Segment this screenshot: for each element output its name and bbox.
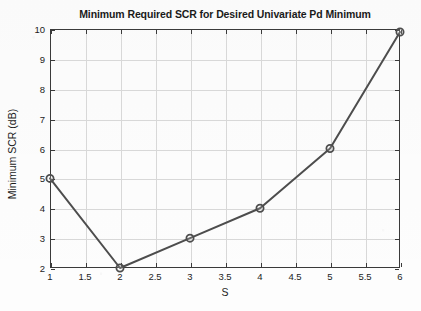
- y-tick-label: 5: [40, 173, 45, 184]
- gridline-vertical: [261, 30, 262, 267]
- y-tick-label: 3: [40, 233, 45, 244]
- y-tick-mark: [51, 179, 55, 180]
- x-tick-mark: [401, 263, 402, 267]
- x-tick-mark: [86, 30, 87, 34]
- gridline-vertical: [121, 30, 122, 267]
- x-tick-mark: [261, 263, 262, 267]
- x-tick-mark: [156, 263, 157, 267]
- y-tick-label: 6: [40, 143, 45, 154]
- x-tick-mark: [296, 30, 297, 34]
- y-tick-mark: [51, 269, 55, 270]
- x-tick-label: 5.5: [358, 271, 371, 282]
- y-tick-mark: [51, 209, 55, 210]
- y-tick-mark: [395, 90, 399, 91]
- y-tick-label: 2: [40, 263, 45, 274]
- gridline-vertical: [226, 30, 227, 267]
- x-tick-label: 2: [117, 271, 122, 282]
- x-tick-label: 4.5: [288, 271, 301, 282]
- y-tick-label: 7: [40, 113, 45, 124]
- y-tick-label: 8: [40, 83, 45, 94]
- x-tick-mark: [191, 263, 192, 267]
- x-tick-label: 1: [47, 271, 52, 282]
- gridline-vertical: [191, 30, 192, 267]
- x-tick-label: 1.5: [78, 271, 91, 282]
- x-tick-label: 6: [397, 271, 402, 282]
- y-tick-mark: [51, 60, 55, 61]
- plot-area: [50, 29, 400, 268]
- y-tick-label: 10: [34, 24, 45, 35]
- x-tick-mark: [261, 30, 262, 34]
- chart-figure: Minimum Required SCR for Desired Univari…: [0, 0, 421, 311]
- x-tick-mark: [331, 263, 332, 267]
- x-tick-label: 3: [187, 271, 192, 282]
- gridline-horizontal: [51, 90, 399, 91]
- gridline-horizontal: [51, 120, 399, 121]
- x-tick-label: 5: [327, 271, 332, 282]
- y-tick-mark: [395, 30, 399, 31]
- y-tick-mark: [51, 30, 55, 31]
- y-tick-mark: [395, 150, 399, 151]
- y-tick-label: 4: [40, 203, 45, 214]
- y-tick-mark: [395, 239, 399, 240]
- gridline-horizontal: [51, 150, 399, 151]
- chart-title: Minimum Required SCR for Desired Univari…: [50, 8, 400, 20]
- x-tick-mark: [191, 30, 192, 34]
- gridline-vertical: [331, 30, 332, 267]
- gridline-horizontal: [51, 60, 399, 61]
- y-axis-label: Minimum SCR (dB): [6, 89, 18, 219]
- x-tick-mark: [226, 30, 227, 34]
- x-tick-mark: [86, 263, 87, 267]
- gridline-vertical: [366, 30, 367, 267]
- x-tick-label: 2.5: [148, 271, 161, 282]
- x-tick-mark: [51, 263, 52, 267]
- x-tick-mark: [366, 263, 367, 267]
- y-tick-mark: [51, 90, 55, 91]
- x-tick-mark: [121, 30, 122, 34]
- y-tick-mark: [51, 120, 55, 121]
- gridline-vertical: [156, 30, 157, 267]
- x-tick-mark: [366, 30, 367, 34]
- gridline-horizontal: [51, 239, 399, 240]
- x-tick-mark: [121, 263, 122, 267]
- y-tick-mark: [395, 269, 399, 270]
- x-axis-label: S: [50, 286, 400, 298]
- y-tick-mark: [395, 179, 399, 180]
- x-tick-mark: [156, 30, 157, 34]
- y-tick-mark: [395, 120, 399, 121]
- x-tick-mark: [401, 30, 402, 34]
- x-tick-mark: [226, 263, 227, 267]
- x-tick-mark: [296, 263, 297, 267]
- x-tick-mark: [331, 30, 332, 34]
- gridline-horizontal: [51, 209, 399, 210]
- x-tick-label: 4: [257, 271, 262, 282]
- gridline-vertical: [86, 30, 87, 267]
- y-tick-mark: [395, 209, 399, 210]
- y-tick-label: 9: [40, 53, 45, 64]
- gridline-vertical: [296, 30, 297, 267]
- x-tick-label: 3.5: [218, 271, 231, 282]
- y-tick-mark: [395, 60, 399, 61]
- y-tick-mark: [51, 150, 55, 151]
- gridline-horizontal: [51, 179, 399, 180]
- y-tick-mark: [51, 239, 55, 240]
